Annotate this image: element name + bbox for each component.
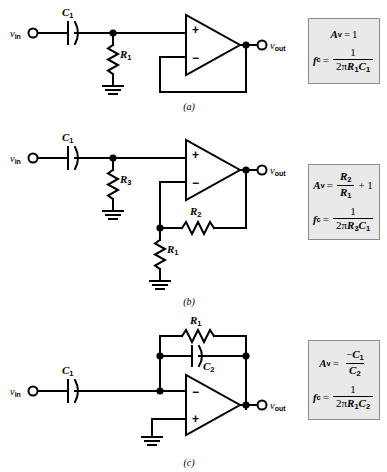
vin-label-a: vin [10,28,21,40]
circuit-b: vin C1 R3 [10,131,286,308]
vout-label-a: vout [270,40,286,52]
circuit-a: vin C1 R1 [10,6,286,113]
caption-b: (b) [183,296,195,308]
gain-equation-b: Av = R2 R1 + 1 [313,171,375,199]
formula-box-a: Av = 1 fc = 1 2πR1C1 [308,18,380,84]
ground-symbol-r1-b [150,281,170,289]
r3-label-b: R3 [119,173,132,187]
resistor-r1-c [160,330,246,342]
r2-label-b: R2 [189,205,202,219]
input-terminal-c [29,387,38,396]
cutoff-equation-a: fc = 1 2πR1C1 [313,47,375,74]
opamp-plus-a: + [192,23,199,37]
r1-label-c: R1 [189,314,202,328]
cutoff-equation-b: fc = 1 2πR3C1 [313,206,375,233]
c1-label-b: C1 [62,131,74,145]
wire-plus-to-ground-c [152,419,186,437]
resistor-r1-b [155,228,165,281]
ground-symbol-c [142,437,162,445]
opamp-body-c [186,375,240,435]
opamp-minus-a: − [192,51,199,65]
opamp-minus-c: − [192,385,199,399]
c2-right-node-c [242,352,249,359]
r1-label-b: R1 [166,243,179,257]
c2-label-c: C2 [203,360,215,374]
r1-label-a: R1 [119,48,132,62]
output-node-a [242,41,249,48]
output-terminal-b [258,166,267,175]
wire-minus-to-node-b [160,182,186,228]
vin-label-c: vin [10,386,21,398]
cutoff-equation-c: fc = 1 2πR1C2 [313,384,375,411]
figure-sheet: vin C1 R1 [0,0,387,472]
opamp-plus-b: + [192,148,199,162]
vin-label-b: vin [10,153,21,165]
vout-label-c: vout [270,400,286,412]
ground-symbol-a [103,86,123,94]
output-terminal-c [258,401,267,410]
output-terminal-a [258,41,267,50]
c1-label-a: C1 [62,6,74,20]
caption-c: (c) [183,457,195,469]
opamp-plus-c: + [192,412,199,426]
c1-label-c: C1 [62,364,74,378]
input-terminal-b [29,154,38,163]
formula-box-c: Av = −C1 C2 fc = 1 2πR1C2 [308,340,380,420]
circuit-c: vin C1 R1 [10,314,286,469]
resistor-r2-b [160,222,246,234]
resistor-r3-b [108,158,118,211]
output-node-c [242,401,249,408]
input-terminal-a [29,29,38,38]
resistor-r1-a [108,33,118,86]
opamp-minus-b: − [192,176,199,190]
caption-a: (a) [183,101,195,113]
vout-label-b: vout [270,165,286,177]
ground-symbol-r3-b [103,211,123,219]
gain-equation-a: Av = 1 [330,29,357,40]
formula-box-b: Av = R2 R1 + 1 fc = 1 2πR3C1 [308,164,380,240]
gain-equation-c: Av = −C1 C2 [319,349,368,377]
